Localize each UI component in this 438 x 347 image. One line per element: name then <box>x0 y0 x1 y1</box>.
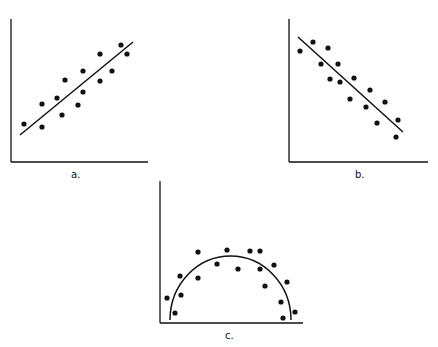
data-point <box>297 48 302 53</box>
data-point <box>292 309 297 314</box>
data-point <box>80 89 85 94</box>
data-point <box>172 310 177 315</box>
data-point <box>80 68 85 73</box>
data-point <box>257 248 262 253</box>
data-point <box>262 283 267 288</box>
data-point <box>195 249 200 254</box>
data-point <box>97 78 102 83</box>
data-point <box>278 299 283 304</box>
data-point <box>21 121 26 126</box>
data-point <box>327 76 332 81</box>
scatter-plots <box>0 0 438 347</box>
data-point <box>382 99 387 104</box>
data-point <box>257 266 262 271</box>
data-point <box>374 120 379 125</box>
data-point <box>235 266 240 271</box>
data-point <box>75 102 80 107</box>
data-point <box>337 79 342 84</box>
data-point <box>124 51 129 56</box>
panel-label-b: b. <box>355 169 365 180</box>
data-point <box>195 275 200 280</box>
data-point <box>59 112 64 117</box>
data-point <box>393 134 398 139</box>
data-point <box>271 262 276 267</box>
data-point <box>325 45 330 50</box>
data-point <box>395 117 400 122</box>
data-point <box>351 75 356 80</box>
data-point <box>363 104 368 109</box>
panel-label-a: a. <box>71 169 80 180</box>
data-point <box>164 295 169 300</box>
panel-label-c: c. <box>225 330 234 341</box>
data-point <box>97 51 102 56</box>
data-point <box>109 68 114 73</box>
data-point <box>118 42 123 47</box>
data-point <box>335 61 340 66</box>
data-point <box>39 101 44 106</box>
data-point <box>177 273 182 278</box>
data-point <box>367 87 372 92</box>
data-point <box>62 77 67 82</box>
data-point <box>54 95 59 100</box>
data-point <box>39 124 44 129</box>
trend-line-b <box>298 37 403 132</box>
data-point <box>224 247 229 252</box>
data-point <box>284 279 289 284</box>
data-point <box>280 315 285 320</box>
data-point <box>178 292 183 297</box>
data-point <box>310 39 315 44</box>
data-point <box>247 248 252 253</box>
scatter-diagram: a. b. c. <box>0 0 438 347</box>
trend-line-a <box>20 42 133 135</box>
data-point <box>214 261 219 266</box>
data-point <box>318 61 323 66</box>
data-point <box>347 96 352 101</box>
